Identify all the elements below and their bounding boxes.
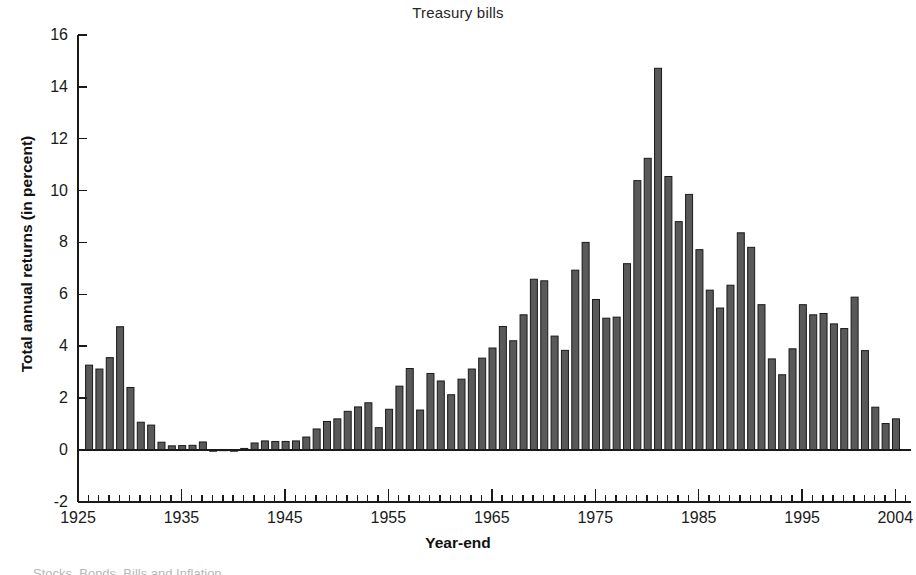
bar: [841, 329, 848, 450]
bar: [655, 68, 662, 450]
bar: [479, 358, 486, 450]
bar: [737, 233, 744, 450]
bar: [717, 308, 724, 450]
bar: [592, 299, 599, 450]
bar: [189, 445, 196, 450]
bar: [355, 407, 362, 450]
x-tick-label: 1925: [48, 510, 108, 526]
bar: [96, 369, 103, 450]
plot-area: [0, 0, 916, 575]
y-tick-label: 6: [34, 286, 68, 302]
bar: [758, 305, 765, 450]
bar: [158, 442, 165, 450]
bar: [261, 441, 268, 450]
bar: [458, 379, 465, 450]
y-tick-label: 10: [34, 183, 68, 199]
y-tick-label: 2: [34, 390, 68, 406]
y-tick-label: 0: [34, 442, 68, 458]
x-tick-label: 1975: [565, 510, 625, 526]
bar: [303, 437, 310, 450]
bar: [520, 315, 527, 450]
bar: [530, 279, 537, 450]
bar: [365, 403, 372, 450]
bar: [892, 419, 899, 450]
chart-figure: Treasury bills Total annual returns (in …: [0, 0, 916, 575]
bar: [644, 158, 651, 450]
y-tick-label: 4: [34, 338, 68, 354]
x-tick-label: 1965: [462, 510, 522, 526]
bar: [86, 365, 93, 450]
bar: [396, 386, 403, 450]
bar: [272, 441, 279, 450]
bar: [789, 349, 796, 450]
x-tick-label: 1995: [772, 510, 832, 526]
bar: [799, 305, 806, 450]
bar: [551, 336, 558, 450]
bar: [375, 428, 382, 450]
bar: [541, 281, 548, 450]
bar: [706, 290, 713, 450]
bar: [510, 341, 517, 450]
bar: [251, 443, 258, 450]
bar: [489, 348, 496, 450]
bar: [137, 422, 144, 450]
bar: [427, 373, 434, 450]
cropped-footer-text: Stocks, Bonds, Bills and Inflation: [33, 566, 243, 575]
bar: [810, 315, 817, 450]
bar: [292, 441, 299, 450]
bar: [820, 314, 827, 451]
bar: [872, 407, 879, 450]
bar: [624, 264, 631, 450]
bar: [406, 369, 413, 450]
bar: [468, 369, 475, 450]
bar: [324, 421, 331, 450]
y-tick-label: 16: [34, 27, 68, 43]
bars-group: [86, 68, 900, 451]
bar: [613, 317, 620, 450]
y-tick-label: 14: [34, 79, 68, 95]
bar: [344, 411, 351, 450]
bar: [727, 285, 734, 450]
bar: [882, 424, 889, 450]
bar: [748, 247, 755, 450]
y-tick-label: -2: [34, 494, 68, 510]
bar: [861, 351, 868, 450]
bar: [199, 442, 206, 450]
bar: [179, 446, 186, 450]
bar: [334, 419, 341, 450]
x-tick-label: 1955: [358, 510, 418, 526]
bar: [603, 318, 610, 450]
bar: [696, 250, 703, 450]
bar: [830, 324, 837, 450]
bar: [686, 194, 693, 450]
bar: [417, 410, 424, 450]
y-tick-label: 12: [34, 131, 68, 147]
x-tick-label: 1935: [151, 510, 211, 526]
bar: [437, 381, 444, 450]
bar: [106, 358, 113, 450]
bar: [572, 270, 579, 450]
bar: [851, 297, 858, 450]
bar: [665, 176, 672, 450]
bar: [675, 222, 682, 450]
x-tick-label: 2004: [865, 510, 916, 526]
bar: [313, 429, 320, 450]
bar: [634, 181, 641, 450]
x-tick-label: 1945: [255, 510, 315, 526]
y-tick-label: 8: [34, 234, 68, 250]
bar: [779, 375, 786, 450]
bar: [582, 242, 589, 450]
bar: [499, 326, 506, 450]
bar: [448, 395, 455, 450]
bar: [282, 441, 289, 450]
bar: [168, 446, 175, 450]
bar: [386, 409, 393, 450]
bar: [768, 359, 775, 450]
bar: [127, 387, 134, 450]
x-tick-label: 1985: [669, 510, 729, 526]
bar: [148, 425, 155, 450]
bar: [117, 327, 124, 450]
bar: [561, 350, 568, 450]
